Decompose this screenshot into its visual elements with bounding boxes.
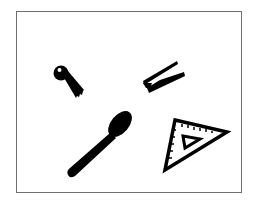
set-square-icon [165,120,227,170]
key-icon [54,66,85,99]
clothespin-icon [143,61,185,93]
objects-canvas [0,0,256,207]
spoon-icon [67,107,136,178]
